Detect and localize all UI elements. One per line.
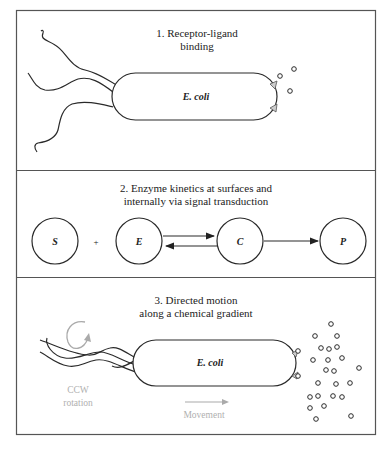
ligand-icon [327,347,332,352]
ligand-icon [331,394,336,399]
ligand-icon [329,322,334,327]
ligand-icon [313,334,318,339]
ligand-icon [288,89,293,94]
node-enzyme-label: E [135,236,143,247]
ligand-icon [322,404,327,409]
ligand-icon [316,381,321,386]
rotation-label-line2: rotation [63,398,93,408]
panel-3-title-line1: 3. Directed motion [155,294,238,306]
node-product-label: P [340,236,347,247]
ligand-icon [319,346,324,351]
panel-3-directed-motion: 3. Directed motion along a chemical grad… [40,294,361,421]
ligand-icon [314,417,319,422]
panel-2-title-line2: internally via signal transduction [124,195,269,207]
ligand-icon [324,368,329,373]
node-complex-label: C [237,236,244,247]
panel-1-title-line1: 1. Receptor-ligand [156,27,238,39]
ligand-icon [308,395,313,400]
plus-sign: + [93,237,98,247]
ligand-icon [348,381,353,386]
ligand-icon [357,366,362,371]
panel-1-cell-label: E. coli [182,91,210,102]
flagella-bundle-icon [40,338,136,372]
flagella-icon [28,30,118,152]
ligand-icon [340,395,345,400]
ligand-icon [308,406,313,411]
node-substrate-label: S [52,236,58,247]
bound-ligand-icon [296,374,301,379]
panel-2-title-line1: 2. Enzyme kinetics at surfaces and [120,182,273,194]
ligand-gradient [308,322,362,422]
ligand-icon [292,67,297,72]
panel-3-title-line2: along a chemical gradient [139,307,252,319]
ligand-icon [349,414,354,419]
ccw-rotation-arrow-icon [67,322,91,349]
ligand-icon [340,356,345,361]
movement-label: Movement [183,410,225,420]
movement-arrow-icon [185,399,229,405]
ligand-icon [316,394,321,399]
ligand-icon [332,369,337,374]
panel-2-enzyme-kinetics: 2. Enzyme kinetics at surfaces and inter… [32,182,366,264]
ligand-icon [326,358,331,363]
ligand-icon [278,74,283,79]
panel-1-title-line2: binding [180,40,214,52]
ligand-icon [335,345,340,350]
panel-1-receptor-ligand-binding: 1. Receptor-ligand binding E. coli [28,27,296,152]
bound-ligand-icon [296,349,301,354]
figure-canvas: 1. Receptor-ligand binding E. coli 2. En… [0,0,392,450]
ligand-icon [335,334,340,339]
ligand-icon [311,358,316,363]
rotation-label-line1: CCW [67,385,89,395]
ligand-icon [334,382,339,387]
panel-3-cell-label: E. coli [196,357,224,368]
